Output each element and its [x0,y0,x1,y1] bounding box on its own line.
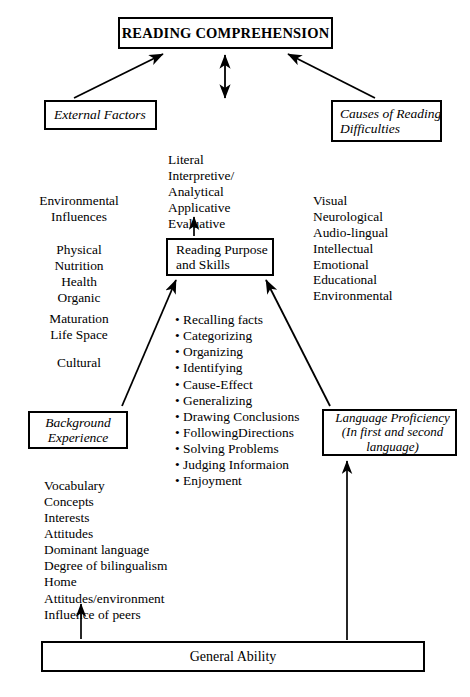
list-maturation-factors: Maturation Life Space [20,311,138,343]
node-background-experience[interactable]: Background Experience [28,411,128,449]
node-reading-comprehension-label: READING COMPREHENSION [120,25,331,41]
node-language-proficiency-label: Language Proficiency (In first and secon… [330,411,455,455]
node-reading-purpose-and-skills[interactable]: Reading Purpose and Skills [166,238,274,276]
list-skills-taxonomy: Literal Interpretive/ Analytical Applica… [168,152,234,231]
list-comprehension-skills: • Recalling facts • Categorizing • Organ… [175,312,299,490]
node-causes-of-reading-difficulties-label: Causes of Reading Difficulties [340,106,441,136]
list-causes-factors: Visual Neurological Audio-lingual Intell… [313,193,393,304]
node-background-experience-label: Background Experience [30,415,126,445]
list-background-factors: Vocabulary Concepts Interests Attitudes … [44,478,167,623]
list-physical-factors: Physical Nutrition Health Organic [20,242,138,306]
edge-external-factors-to-title [74,54,163,98]
node-reading-purpose-and-skills-label: Reading Purpose and Skills [176,242,268,272]
node-language-proficiency[interactable]: Language Proficiency (In first and secon… [322,409,457,456]
node-reading-comprehension[interactable]: READING COMPREHENSION [118,17,333,49]
node-general-ability[interactable]: General Ability [41,641,425,672]
list-environmental-influences: Environmental Influences [20,193,138,225]
list-cultural-factors: Cultural [20,355,138,371]
node-external-factors[interactable]: External Factors [44,100,157,130]
diagram-canvas: READING COMPREHENSION External Factors C… [0,0,470,697]
node-general-ability-label: General Ability [190,649,277,665]
node-external-factors-label: External Factors [54,107,146,122]
node-causes-of-reading-difficulties[interactable]: Causes of Reading Difficulties [331,100,442,142]
edge-causes-to-title [288,54,375,98]
